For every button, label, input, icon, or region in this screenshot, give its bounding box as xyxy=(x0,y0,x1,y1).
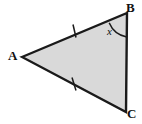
angle-label-x: x xyxy=(107,26,112,37)
triangle-diagram-svg xyxy=(0,0,142,124)
vertex-label-b: B xyxy=(126,1,135,14)
vertex-label-a: A xyxy=(8,49,17,62)
geometry-figure: A B C x xyxy=(0,0,142,124)
vertex-label-c: C xyxy=(127,107,136,120)
